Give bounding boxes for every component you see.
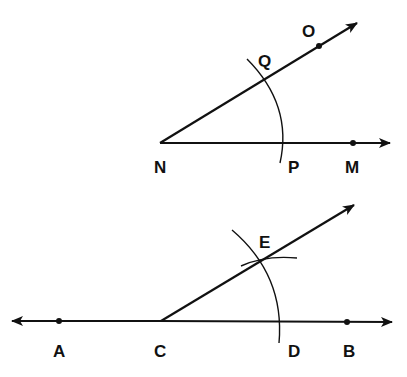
label-Q: Q [258,52,271,71]
arc-PQ [247,59,283,163]
ray-NO [160,23,357,143]
label-D: D [288,342,300,361]
line-CB [160,321,392,322]
point-O [316,43,322,49]
label-A: A [53,342,65,361]
label-P: P [288,158,299,177]
label-M: M [345,158,359,177]
label-O: O [302,22,315,41]
diagram-svg: N P M Q O A C D B E [0,0,407,377]
label-N: N [154,158,166,177]
top-angle: N P M Q O [154,22,390,177]
point-B [344,319,350,325]
point-A [56,318,62,324]
ray-CE [161,205,354,321]
point-M [350,140,356,146]
label-C: C [154,342,166,361]
angle-construction-diagram: N P M Q O A C D B E [0,0,407,377]
arc-DE [232,230,280,343]
label-B: B [343,342,355,361]
bottom-angle: A C D B E [12,205,392,361]
arc-E-cross [241,257,297,266]
label-E: E [259,233,270,252]
